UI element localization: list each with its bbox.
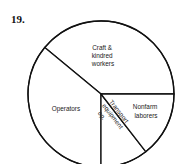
label-craft-line-1: Craft & xyxy=(92,44,113,51)
label-operators-line-1: Operators xyxy=(52,105,80,113)
label-craft: Craft & kindred workers xyxy=(91,44,115,67)
label-nonfarm-line-2: laborers xyxy=(134,112,157,119)
pie-chart: Craft & kindred workers Operators Nonfar… xyxy=(0,0,183,164)
label-operators: Operators xyxy=(52,105,80,113)
label-craft-line-2: kindred xyxy=(92,52,113,59)
label-craft-line-3: workers xyxy=(91,60,114,67)
label-nonfarm-line-1: Nonfarm xyxy=(133,103,158,110)
